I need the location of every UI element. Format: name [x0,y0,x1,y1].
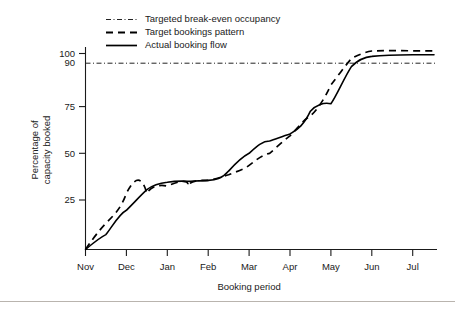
legend-item-actual-booking-flow: Actual booking flow [106,39,227,50]
y-axis-title-line2: capacity booked [41,116,52,185]
series-line-target-bookings-pattern [86,51,435,250]
y-axis-title-line1: Percentage of [29,120,40,180]
series-line-actual-booking-flow [86,55,435,250]
booking-flow-chart: Targeted break-even occupancy Target boo… [0,0,455,310]
chart-legend: Targeted break-even occupancy Target boo… [106,13,280,50]
legend-label-target-bookings-pattern: Target bookings pattern [145,26,244,37]
x-tick-label-mar: Mar [241,261,257,272]
x-axis-ticks: Nov Dec Jan Feb Mar Apr May Jun Jul [77,250,419,273]
x-tick-label-nov: Nov [77,261,94,272]
x-tick-label-apr: Apr [283,261,298,272]
y-tick-label-25: 25 [64,194,75,205]
legend-label-actual-booking-flow: Actual booking flow [145,39,227,50]
x-tick-label-may: May [322,261,340,272]
x-tick-label-dec: Dec [118,261,135,272]
y-tick-label-75: 75 [64,101,75,112]
y-tick-label-50: 50 [64,148,75,159]
x-tick-label-jan: Jan [160,261,175,272]
legend-item-targeted-break-even-occupancy: Targeted break-even occupancy [106,13,280,24]
y-tick-label-90: 90 [64,57,75,68]
x-tick-label-jul: Jul [407,261,419,272]
chart-axes [86,47,438,250]
x-tick-label-feb: Feb [200,261,216,272]
x-axis-title: Booking period [217,281,280,292]
x-tick-label-jun: Jun [364,261,379,272]
legend-item-target-bookings-pattern: Target bookings pattern [106,26,244,37]
legend-label-targeted-break-even-occupancy: Targeted break-even occupancy [145,13,280,24]
y-axis-ticks: 100 90 75 50 25 [59,48,85,206]
